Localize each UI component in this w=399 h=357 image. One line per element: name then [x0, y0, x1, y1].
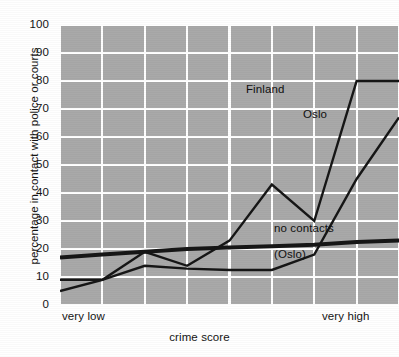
- series-label-no-contacts: no contacts: [274, 222, 334, 234]
- series-label-no-contacts-oslo: (Oslo): [274, 248, 306, 260]
- y-tick-label: 0: [43, 299, 50, 310]
- series-label-oslo: Oslo: [303, 108, 327, 120]
- chart-figure: 100 90 80 70 60 50 40 30 20 10 0 percent…: [0, 0, 399, 357]
- series-label-finland: Finland: [246, 83, 284, 95]
- y-axis-title: percentage in contact with police or cou…: [28, 36, 40, 276]
- y-tick-label: 100: [30, 19, 50, 30]
- x-tick-label-very-high: very high: [322, 310, 370, 322]
- chart-canvas: [60, 25, 399, 305]
- x-tick-label-very-low: very low: [62, 310, 105, 322]
- plot-area: [60, 25, 399, 305]
- x-axis-title: crime score: [0, 331, 399, 343]
